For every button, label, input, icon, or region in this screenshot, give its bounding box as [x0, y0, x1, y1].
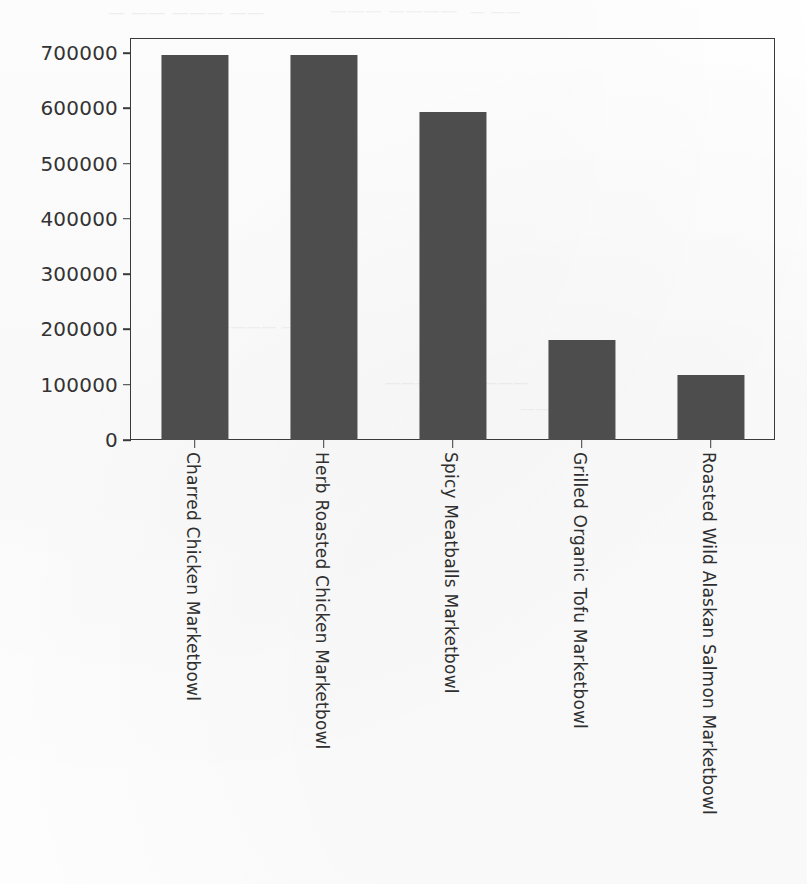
- y-tick-mark: [123, 218, 131, 220]
- x-tick-mark: [710, 440, 712, 448]
- y-tick-label: 500000: [40, 152, 118, 176]
- scan-ghost-text: — —— ——— ——: [108, 2, 265, 22]
- y-tick-label: 400000: [40, 207, 118, 231]
- y-tick-mark: [123, 163, 131, 165]
- scan-ghost-text: ——— ————: [330, 0, 458, 20]
- y-tick-mark: [123, 329, 131, 331]
- scan-ghost-text: — ——: [470, 3, 521, 21]
- bar: [161, 55, 228, 440]
- chart-page: — —— ——— —— ——— ———— — —— ———— —— ————— …: [0, 0, 807, 884]
- bar: [677, 375, 744, 440]
- x-tick-mark: [581, 440, 583, 448]
- x-tick-mark: [452, 440, 454, 448]
- y-tick-label: 600000: [40, 96, 118, 120]
- y-tick-label: 700000: [40, 41, 118, 65]
- y-tick-label: 0: [105, 428, 118, 452]
- y-tick-mark: [123, 52, 131, 54]
- y-tick-mark: [123, 273, 131, 275]
- y-tick-mark: [123, 439, 131, 441]
- x-tick-label: Roasted Wild Alaskan Salmon Marketbowl: [699, 452, 719, 815]
- x-tick-label: Herb Roasted Chicken Marketbowl: [312, 452, 332, 750]
- x-tick-label: Spicy Meatballs Marketbowl: [441, 452, 461, 694]
- x-tick-mark: [323, 440, 325, 448]
- bar: [419, 112, 486, 440]
- y-tick-label: 200000: [40, 317, 118, 341]
- y-tick-mark: [123, 384, 131, 386]
- bar: [548, 340, 615, 440]
- x-tick-mark: [194, 440, 196, 448]
- y-tick-label: 300000: [40, 262, 118, 286]
- y-tick-mark: [123, 107, 131, 109]
- y-tick-label: 100000: [40, 373, 118, 397]
- x-tick-label: Charred Chicken Marketbowl: [183, 452, 203, 701]
- x-tick-label: Grilled Organic Tofu Marketbowl: [570, 452, 590, 729]
- bar: [290, 55, 357, 440]
- chart-description: Vertical bar chart of five marketbowl me…: [0, 0, 1, 1]
